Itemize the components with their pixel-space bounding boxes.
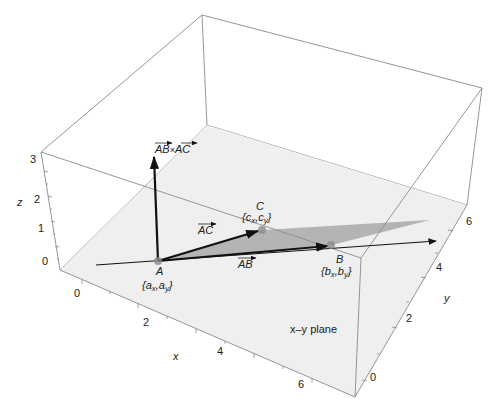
- svg-text:4: 4: [217, 345, 223, 357]
- plane-label: x–y plane: [290, 323, 337, 335]
- svg-text:{ax,ay}: {ax,ay}: [142, 279, 173, 293]
- point-c: [258, 226, 266, 234]
- svg-text:3: 3: [30, 153, 36, 165]
- svg-text:4: 4: [436, 261, 442, 273]
- svg-text:2: 2: [143, 316, 149, 328]
- x-axis-label: x: [172, 350, 179, 362]
- svg-text:2: 2: [34, 193, 40, 205]
- 3d-vector-diagram: 3 2 1 0 z 0 2 4 6 x 0 2 4 6 y x–y plane …: [0, 0, 493, 401]
- label-vector-ac: AC: [197, 224, 216, 236]
- svg-text:0: 0: [42, 255, 48, 267]
- svg-text:0: 0: [370, 371, 376, 383]
- svg-text:2: 2: [406, 312, 412, 324]
- svg-text:AB×AC: AB×AC: [154, 143, 190, 155]
- svg-text:{cx,cy}: {cx,cy}: [242, 211, 272, 225]
- svg-text:6: 6: [298, 378, 304, 390]
- point-b: [327, 241, 335, 249]
- xy-plane: [60, 125, 467, 397]
- svg-text:AB: AB: [237, 258, 253, 270]
- svg-text:1: 1: [38, 222, 44, 234]
- svg-text:0: 0: [74, 287, 80, 299]
- svg-text:B: B: [336, 253, 343, 265]
- z-tick-labels: 3 2 1 0: [30, 153, 48, 267]
- svg-text:6: 6: [466, 215, 472, 227]
- y-axis-label: y: [443, 292, 451, 304]
- svg-text:A: A: [155, 265, 163, 277]
- svg-text:AC: AC: [197, 224, 213, 236]
- point-a: [154, 257, 162, 265]
- svg-text:{bx,by}: {bx,by}: [321, 265, 352, 279]
- z-axis-label: z: [16, 196, 23, 208]
